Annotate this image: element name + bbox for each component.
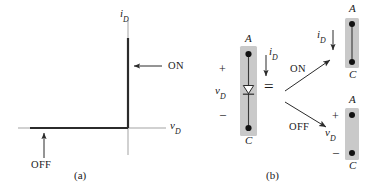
diode-anode-label: A [245, 33, 252, 44]
panel-a-on-label: ON [168, 61, 184, 72]
panel-b-short-circuit-model [345, 18, 359, 68]
open-circuit-minus-sign: – [333, 146, 339, 158]
short-circuit-anode-label: A [349, 3, 356, 14]
diode-plus-sign: + [219, 63, 226, 75]
diode-minus-sign: – [220, 108, 226, 120]
panel-b-diode-body [240, 46, 257, 136]
off-branch-label: OFF [289, 122, 309, 133]
open-circuit-anode-label: A [349, 94, 356, 105]
diode-current-label: iD [269, 46, 278, 57]
short-circuit-current-label: iD [317, 29, 326, 40]
open-circuit-plus-sign: + [332, 110, 339, 122]
panel-a-caption: (a) [74, 170, 86, 181]
diode-figure: iD vD ON OFF (a) A C + vD – iD = ON iD A… [0, 0, 375, 190]
on-branch-label: ON [290, 64, 306, 75]
panel-a-y-axis-label: iD [120, 8, 129, 19]
panel-a-axes [18, 20, 166, 155]
open-circuit-cathode-label: C [349, 160, 356, 171]
short-circuit-cathode-label: C [349, 69, 356, 80]
panel-b-caption: (b) [266, 170, 279, 181]
diode-cathode-label: C [245, 135, 252, 146]
panel-a-characteristic-curve [30, 38, 128, 128]
open-circuit-voltage-label: vD [325, 127, 336, 138]
panel-a-off-label: OFF [31, 160, 51, 171]
panel-b-open-circuit-model [345, 108, 359, 160]
panel-a-x-axis-label: vD [170, 120, 181, 131]
diode-voltage-label: vD [215, 85, 226, 96]
equivalence-sign: = [264, 78, 274, 95]
